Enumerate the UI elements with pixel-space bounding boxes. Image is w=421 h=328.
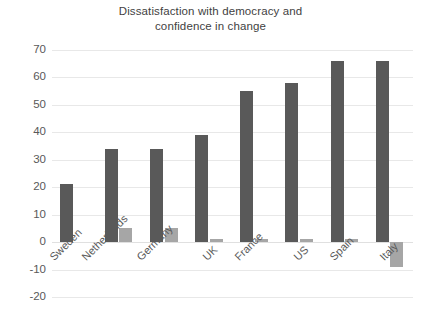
chart-title: Dissatisfaction with democracy and confi… (0, 4, 421, 34)
y-tick-label-30: 30 (0, 154, 46, 166)
y-tick-label-0: 0 (0, 236, 46, 248)
bar (285, 83, 298, 242)
x-axis-tick-labels: SwedenNetherlandsGermanyUKFranceUSSpainI… (52, 253, 413, 328)
y-tick-label-60: 60 (0, 72, 46, 84)
chart-title-line-1: Dissatisfaction with democracy and (0, 4, 421, 19)
bar (240, 91, 253, 242)
y-tick-label-70: 70 (0, 44, 46, 56)
bar (376, 61, 389, 242)
y-tick-label--10: -10 (0, 264, 46, 276)
bar (119, 228, 132, 242)
bar-chart: Dissatisfaction with democracy and confi… (0, 0, 421, 328)
y-tick-label--20: -20 (0, 291, 46, 303)
bar (331, 61, 344, 242)
bar (210, 239, 223, 242)
y-tick-label-10: 10 (0, 209, 46, 221)
bar (195, 135, 208, 242)
y-tick-label-50: 50 (0, 99, 46, 111)
y-tick-label-40: 40 (0, 127, 46, 139)
y-tick-label-20: 20 (0, 181, 46, 193)
y-axis-tick-labels: 706050403020100-10-20 (0, 50, 46, 297)
bar (300, 239, 313, 242)
chart-title-line-2: confidence in change (0, 19, 421, 34)
